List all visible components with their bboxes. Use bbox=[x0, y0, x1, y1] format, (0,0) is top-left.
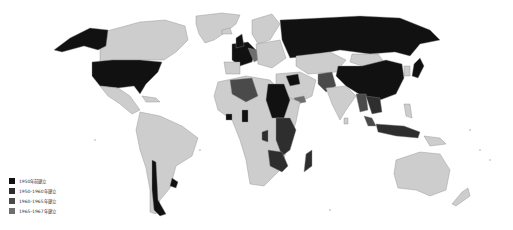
eastern-europe bbox=[256, 40, 286, 68]
island bbox=[94, 139, 96, 141]
island bbox=[469, 129, 471, 131]
russia bbox=[280, 16, 440, 58]
island bbox=[199, 149, 201, 151]
legend-item: 1960-1965年建立 bbox=[9, 196, 56, 205]
greenland bbox=[196, 13, 240, 43]
west-africa-2 bbox=[242, 110, 248, 122]
legend-swatch bbox=[9, 208, 15, 214]
island bbox=[329, 209, 331, 211]
mexico bbox=[100, 86, 140, 114]
island bbox=[479, 149, 481, 151]
legend-item: 1965-1967年建立 bbox=[9, 206, 56, 215]
legend-label: 1960-1965年建立 bbox=[19, 198, 56, 204]
iberia bbox=[224, 62, 240, 74]
new-guinea bbox=[424, 136, 446, 146]
australia bbox=[394, 152, 450, 196]
canada bbox=[100, 20, 188, 62]
new-zealand bbox=[452, 188, 470, 206]
legend: 1950年前建立 1950-1960年建立 1960-1965年建立 1965-… bbox=[9, 176, 56, 216]
scandinavia bbox=[252, 14, 280, 44]
legend-item: 1950年前建立 bbox=[9, 176, 56, 185]
philippines bbox=[404, 104, 412, 118]
sri-lanka bbox=[344, 118, 348, 124]
malaysia bbox=[364, 116, 376, 126]
legend-swatch bbox=[9, 188, 15, 194]
indochina bbox=[366, 96, 382, 114]
legend-item: 1950-1960年建立 bbox=[9, 186, 56, 195]
madagascar bbox=[304, 150, 312, 172]
world-map bbox=[0, 0, 513, 230]
uk bbox=[236, 34, 244, 48]
indonesia bbox=[376, 124, 420, 138]
legend-label: 1950-1960年建立 bbox=[19, 188, 56, 194]
korea bbox=[404, 66, 410, 76]
legend-label: 1950年前建立 bbox=[19, 178, 46, 184]
south-america bbox=[136, 112, 198, 214]
legend-swatch bbox=[9, 178, 15, 184]
legend-swatch bbox=[9, 198, 15, 204]
caribbean bbox=[142, 96, 160, 102]
gabon-congo bbox=[262, 130, 268, 142]
island bbox=[489, 159, 491, 161]
legend-label: 1965-1967年建立 bbox=[19, 208, 56, 214]
west-africa-1 bbox=[226, 114, 232, 120]
india bbox=[326, 86, 356, 120]
alaska bbox=[54, 28, 108, 52]
japan bbox=[412, 58, 424, 78]
